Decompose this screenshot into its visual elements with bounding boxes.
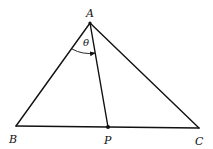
label-c: C — [195, 135, 204, 148]
label-p: P — [103, 134, 112, 147]
triangle-diagram: A B P C θ — [0, 0, 213, 149]
label-b: B — [8, 133, 17, 146]
point-a-dot — [88, 21, 91, 24]
label-a: A — [85, 7, 94, 20]
angle-theta-arc — [72, 49, 95, 54]
point-p-dot — [106, 125, 110, 129]
side-ac — [90, 23, 199, 128]
side-ab — [16, 23, 90, 126]
label-theta: θ — [83, 37, 89, 48]
